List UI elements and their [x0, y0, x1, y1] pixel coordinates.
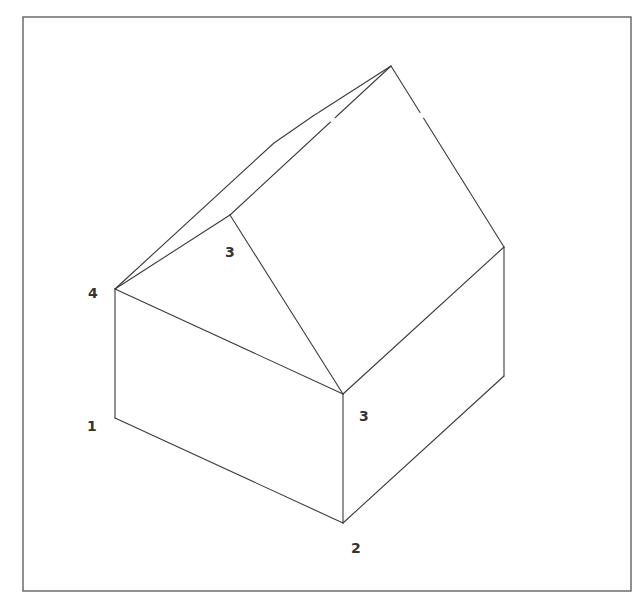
roof-outer-ridge-edge: [115, 66, 391, 289]
front-top-edge: [115, 289, 343, 394]
roof-right-eave-edge: [391, 66, 504, 247]
vertex-label-1: 1: [87, 418, 97, 434]
figure-frame: [23, 17, 631, 591]
roof-inner-ridge-edge: [230, 66, 391, 215]
gable-left-slope-edge: [115, 215, 230, 289]
scan-gap-artifact: [420, 113, 423, 118]
front-bottom-edge: [115, 418, 343, 523]
vertex-label-3-roof: 3: [225, 244, 235, 260]
vertex-label-3-front: 3: [359, 408, 369, 424]
scan-gap-artifact: [330, 117, 334, 121]
house-diagram: 4 1 3 3 2: [0, 0, 643, 610]
gable-right-slope-edge: [230, 215, 343, 394]
right-top-edge: [343, 247, 504, 394]
right-bottom-edge: [343, 376, 504, 523]
vertex-label-4: 4: [88, 285, 98, 301]
vertex-label-2: 2: [351, 540, 361, 556]
scan-gap-artifact: [312, 110, 318, 113]
